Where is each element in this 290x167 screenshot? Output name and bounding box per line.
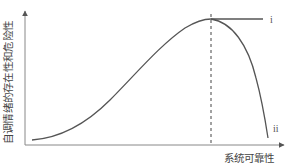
branch-i-label: i bbox=[270, 14, 273, 25]
branch-ii-curve bbox=[211, 19, 268, 138]
y-axis-label: 自调情绪的存在性和危险性 bbox=[1, 18, 15, 146]
x-axis-label: 系统可靠性 bbox=[224, 150, 274, 165]
figure-canvas bbox=[0, 0, 290, 167]
y-axis-label-text: 自调情绪的存在性和危险性 bbox=[1, 20, 16, 144]
main-curve bbox=[32, 19, 211, 140]
branch-ii-label: ii bbox=[273, 123, 279, 134]
